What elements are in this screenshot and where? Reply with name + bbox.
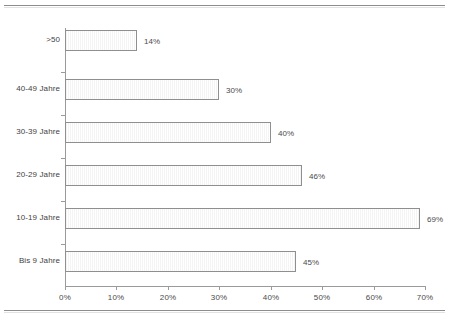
bar-value-10-19: 69% — [427, 214, 443, 223]
bar-row-30-39: 40% — [65, 122, 425, 143]
age-distribution-bar-chart: >50 14% 40-49 Jahre 30% 30-39 Jahre 40% … — [0, 0, 449, 321]
bar-value-30-39: 40% — [278, 128, 294, 137]
bar-row-over-50: 14% — [65, 30, 425, 51]
bar-row-bis-9: 45% — [65, 251, 425, 272]
bar-row-20-29: 46% — [65, 165, 425, 186]
y-axis-tick-5 — [61, 244, 65, 245]
x-axis-label-40: 40% — [263, 293, 279, 302]
x-axis-label-30: 30% — [211, 293, 227, 302]
y-axis-tick-1 — [61, 72, 65, 73]
y-axis-tick-4 — [61, 201, 65, 202]
bar-bis-9[interactable] — [65, 251, 296, 272]
x-axis-label-0: 0% — [59, 293, 71, 302]
bar-value-over-50: 14% — [144, 36, 160, 45]
bar-row-40-49: 30% — [65, 79, 425, 100]
bar-over-50[interactable] — [65, 30, 137, 51]
category-label-20-29: 20-29 Jahre — [0, 170, 60, 179]
bar-10-19[interactable] — [65, 208, 420, 229]
y-axis-tick-3 — [61, 158, 65, 159]
x-axis-tick-70 — [425, 286, 426, 290]
category-label-10-19: 10-19 Jahre — [0, 213, 60, 222]
bar-30-39[interactable] — [65, 122, 271, 143]
bottom-divider-rule — [4, 310, 445, 311]
x-axis-line — [65, 286, 426, 287]
x-axis-label-60: 60% — [366, 293, 382, 302]
bar-row-10-19: 69% — [65, 208, 425, 229]
bar-value-40-49: 30% — [226, 85, 242, 94]
x-axis-tick-20 — [168, 286, 169, 290]
x-axis-tick-30 — [219, 286, 220, 290]
x-axis-tick-10 — [116, 286, 117, 290]
y-axis-line — [65, 28, 66, 287]
x-axis-label-70: 70% — [417, 293, 433, 302]
category-label-30-39: 30-39 Jahre — [0, 127, 60, 136]
bar-40-49[interactable] — [65, 79, 219, 100]
x-axis-label-10: 10% — [108, 293, 124, 302]
bottom-divider-shadow — [4, 312, 445, 313]
category-label-over-50: >50 — [0, 35, 60, 44]
x-axis-tick-40 — [271, 286, 272, 290]
y-axis-tick-2 — [61, 115, 65, 116]
bar-20-29[interactable] — [65, 165, 302, 186]
bar-value-20-29: 46% — [309, 171, 325, 180]
category-label-40-49: 40-49 Jahre — [0, 84, 60, 93]
bar-value-bis-9: 45% — [303, 257, 319, 266]
x-axis-label-20: 20% — [160, 293, 176, 302]
x-axis-label-50: 50% — [314, 293, 330, 302]
x-axis-tick-60 — [374, 286, 375, 290]
category-label-bis-9: Bis 9 Jahre — [0, 256, 60, 265]
x-axis-tick-50 — [322, 286, 323, 290]
x-axis-tick-0 — [65, 286, 66, 290]
